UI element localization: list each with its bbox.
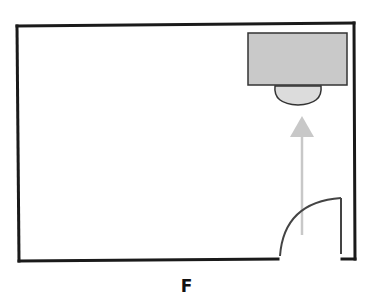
wall-right bbox=[354, 23, 355, 259]
wall-bottom-left bbox=[19, 259, 278, 261]
figure-caption: F bbox=[0, 276, 373, 296]
desk bbox=[248, 33, 347, 85]
door bbox=[280, 198, 341, 256]
wall-left bbox=[17, 26, 19, 261]
door-swing-arc bbox=[280, 198, 341, 256]
arrow-head-icon bbox=[290, 116, 314, 137]
chair bbox=[275, 86, 321, 105]
floor-plan bbox=[0, 0, 373, 299]
wall-top bbox=[17, 23, 354, 26]
